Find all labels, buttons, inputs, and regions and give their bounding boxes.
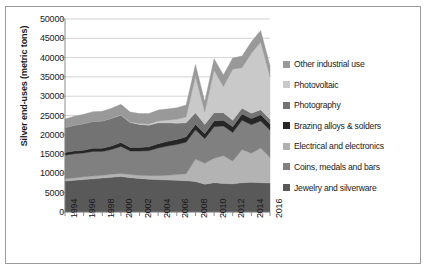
x-tick-label: 2002 [143, 199, 153, 218]
legend-swatch-icon [283, 81, 290, 88]
legend-item[interactable]: Photovoltaic [283, 80, 430, 90]
legend-item[interactable]: Coins, medals and bars [283, 162, 430, 172]
legend-swatch-icon [283, 122, 290, 129]
legend-item-label: Electrical and electronics [294, 141, 384, 151]
legend-item-label: Other industrial use [294, 59, 365, 69]
legend-swatch-icon [283, 163, 290, 170]
legend-item[interactable]: Electrical and electronics [283, 141, 430, 151]
x-tick-label: 1998 [106, 199, 116, 218]
x-tick-label: 1994 [69, 199, 79, 218]
legend-item-label: Photovoltaic [294, 80, 338, 90]
x-tick-label: 1996 [87, 199, 97, 218]
x-tick-label: 2008 [199, 199, 209, 218]
x-tick-label: 2014 [255, 199, 265, 218]
legend-item-label: Jewelry and silverware [294, 183, 377, 193]
legend-item[interactable]: Other industrial use [283, 59, 430, 69]
x-tick-label: 2012 [236, 199, 246, 218]
x-tick-label: 2010 [218, 199, 228, 218]
legend-item-label: Brazing alloys & solders [294, 121, 381, 131]
legend-swatch-icon [283, 61, 290, 68]
legend-swatch-icon [283, 184, 290, 191]
legend-item[interactable]: Photography [283, 100, 430, 110]
x-tick-label: 2004 [162, 199, 172, 218]
chart-container: Silver end-uses (metric tons) 0500010000… [5, 6, 421, 264]
x-tick-label: 2000 [124, 199, 134, 218]
x-tick-label: 2006 [180, 199, 190, 218]
chart-legend: Other industrial usePhotovoltaicPhotogra… [283, 59, 430, 203]
legend-swatch-icon [283, 143, 290, 150]
legend-item-label: Coins, medals and bars [294, 162, 380, 172]
legend-swatch-icon [283, 102, 290, 109]
legend-item[interactable]: Brazing alloys & solders [283, 121, 430, 131]
legend-item[interactable]: Jewelry and silverware [283, 183, 430, 193]
x-axis-tick-labels: 1994199619982000200220042006200820102012… [6, 7, 420, 47]
x-tick-label: 2016 [274, 199, 284, 218]
legend-item-label: Photography [294, 100, 341, 110]
